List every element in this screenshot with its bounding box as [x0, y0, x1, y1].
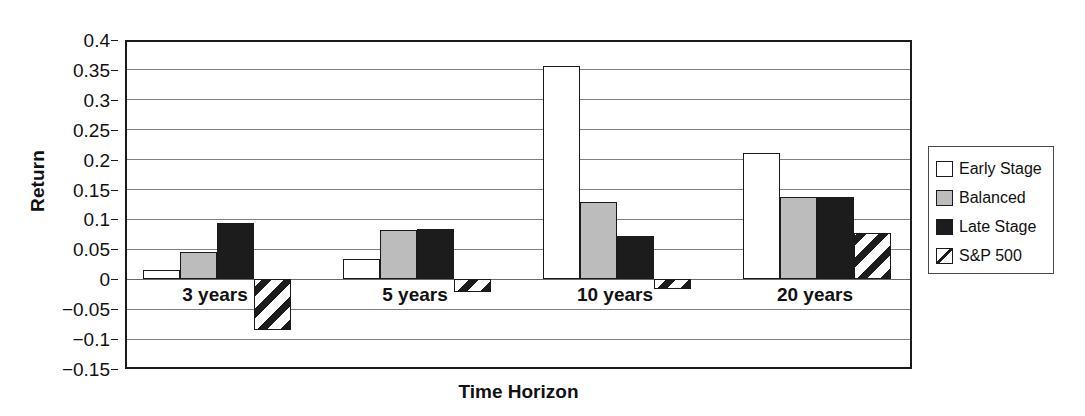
- bar-sp500-1: [454, 279, 491, 292]
- bar-early-3: [743, 153, 780, 279]
- y-axis-tick-label: 0.2: [84, 150, 110, 169]
- y-axis-tick-label: 0.05: [73, 240, 110, 259]
- legend-item-sp500[interactable]: S&P 500: [936, 241, 1048, 270]
- y-axis-tick-mark: [111, 219, 118, 220]
- y-axis-tick-label: −0.15: [62, 360, 110, 379]
- y-axis-tick-label: 0: [99, 270, 110, 289]
- y-axis-tick-mark: [111, 100, 118, 101]
- x-axis-category-label: 5 years: [382, 284, 448, 306]
- y-axis-tick-label: 0.1: [84, 210, 110, 229]
- legend-item-early[interactable]: Early Stage: [936, 154, 1048, 183]
- bar-chart: Return 0.40.350.30.250.20.150.10.050−0.0…: [0, 0, 1085, 416]
- bars-layer: [127, 42, 910, 367]
- y-axis-tick-mark: [111, 70, 118, 71]
- legend-swatch-balanced-icon: [936, 190, 953, 206]
- y-axis-tick-mark: [111, 369, 118, 370]
- legend-item-label: Late Stage: [959, 219, 1036, 235]
- bar-sp500-2: [654, 279, 691, 289]
- y-axis-tick-label: 0.3: [84, 90, 110, 109]
- legend-item-late[interactable]: Late Stage: [936, 212, 1048, 241]
- y-axis-tick-label: 0.35: [73, 60, 110, 79]
- legend-item-label: S&P 500: [959, 248, 1022, 264]
- legend-swatch-late-icon: [936, 219, 953, 235]
- y-axis-tick-label: 0.25: [73, 120, 110, 139]
- legend-item-label: Early Stage: [959, 161, 1042, 177]
- y-axis-tick-mark: [111, 279, 118, 280]
- bar-late-0: [217, 223, 254, 279]
- bar-early-1: [343, 259, 380, 279]
- y-axis-tick-label: 0.15: [73, 180, 110, 199]
- bar-early-0: [143, 270, 180, 279]
- bar-balanced-1: [380, 230, 417, 278]
- legend: Early StageBalancedLate StageS&P 500: [928, 146, 1054, 274]
- bar-late-2: [617, 236, 654, 278]
- bar-balanced-3: [780, 197, 817, 279]
- y-axis-tick-label: 0.4: [84, 31, 110, 50]
- y-axis-tick-label: −0.05: [62, 300, 110, 319]
- bar-sp500-0: [254, 279, 291, 330]
- x-axis-category-label: 10 years: [577, 284, 653, 306]
- legend-item-label: Balanced: [959, 190, 1026, 206]
- bar-balanced-0: [180, 252, 217, 278]
- bar-sp500-3: [854, 233, 891, 279]
- legend-swatch-early-icon: [936, 161, 953, 177]
- bar-late-3: [817, 197, 854, 279]
- bar-late-1: [417, 229, 454, 279]
- plot-area: [125, 40, 912, 369]
- x-axis-title: Time Horizon: [125, 381, 912, 403]
- bar-balanced-2: [580, 202, 617, 279]
- y-axis-tick-mark: [111, 130, 118, 131]
- y-axis-tick-mark: [111, 309, 118, 310]
- y-axis-tick-mark: [111, 40, 118, 41]
- legend-item-balanced[interactable]: Balanced: [936, 183, 1048, 212]
- bar-early-2: [543, 66, 580, 278]
- y-axis-tick-labels: 0.40.350.30.250.20.150.10.050−0.05−0.1−0…: [40, 40, 118, 369]
- y-axis-tick-mark: [111, 249, 118, 250]
- y-axis-tick-mark: [111, 190, 118, 191]
- y-axis-tick-label: −0.1: [72, 330, 110, 349]
- x-axis-category-label: 3 years: [182, 284, 248, 306]
- y-axis-tick-mark: [111, 339, 118, 340]
- legend-swatch-sp500-icon: [936, 248, 953, 264]
- y-axis-tick-mark: [111, 160, 118, 161]
- x-axis-category-label: 20 years: [777, 284, 853, 306]
